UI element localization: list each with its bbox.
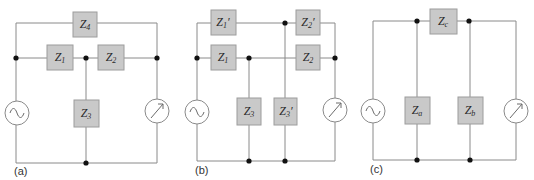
label-z2-prime: Z2′ bbox=[301, 16, 314, 30]
junction-dot bbox=[83, 160, 88, 165]
junction-dot bbox=[332, 55, 337, 60]
ac-source-icon bbox=[361, 99, 385, 123]
caption-c: (c) bbox=[370, 164, 383, 175]
label-z1-prime: Z1′ bbox=[216, 16, 229, 30]
label-zb: Zb bbox=[465, 104, 476, 118]
caption-b: (b) bbox=[195, 165, 208, 176]
label-z1: Z1 bbox=[55, 51, 66, 65]
meter-icon bbox=[504, 99, 528, 123]
junction-dot bbox=[414, 18, 419, 23]
junction-dot bbox=[466, 18, 471, 23]
ac-source-icon bbox=[185, 100, 209, 124]
junction-dot bbox=[414, 157, 419, 162]
junction-dot bbox=[154, 55, 159, 60]
junction-dot bbox=[246, 158, 251, 163]
ac-source-icon bbox=[5, 101, 29, 125]
label-zc: Zc bbox=[438, 15, 448, 29]
junction-dot bbox=[83, 55, 88, 60]
caption-a: (a) bbox=[14, 166, 27, 177]
label-z2: Z2 bbox=[303, 51, 314, 65]
junction-dot bbox=[13, 55, 18, 60]
junction-dot bbox=[246, 55, 251, 60]
label-z4: Z4 bbox=[80, 18, 91, 32]
diagram-c bbox=[361, 9, 528, 163]
label-z3: Z3 bbox=[244, 105, 255, 119]
diagram-b bbox=[185, 10, 347, 164]
diagram-a bbox=[5, 12, 169, 166]
bottom-wire bbox=[373, 123, 516, 160]
label-za: Za bbox=[412, 104, 423, 118]
label-z3: Z3 bbox=[81, 107, 92, 121]
label-z1: Z1 bbox=[218, 51, 229, 65]
label-z2: Z2 bbox=[106, 51, 117, 65]
junction-dot bbox=[282, 158, 287, 163]
junction-dot bbox=[467, 157, 472, 162]
meter-icon bbox=[323, 98, 347, 122]
label-z3-prime: Z3′ bbox=[279, 105, 292, 119]
junction-dot bbox=[282, 20, 287, 25]
meter-icon bbox=[145, 99, 169, 123]
outer-loop-wire bbox=[197, 58, 335, 161]
junction-dot bbox=[194, 55, 199, 60]
